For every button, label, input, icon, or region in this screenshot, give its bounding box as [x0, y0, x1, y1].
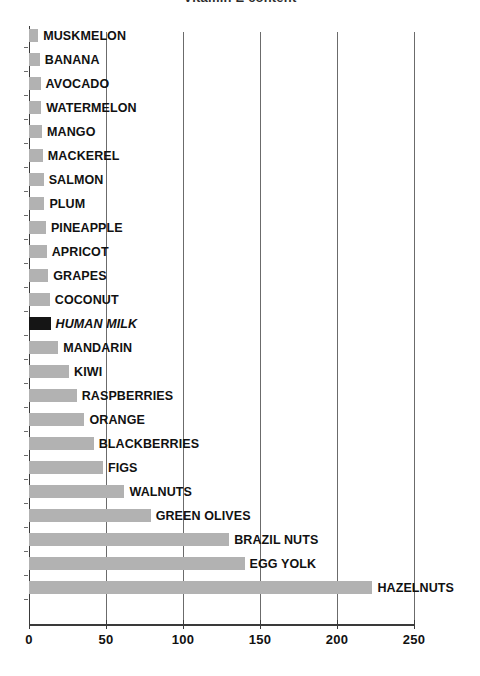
bar-label-mandarin: MANDARIN [63, 336, 132, 360]
bar-row: APRICOT [0, 240, 480, 264]
bar-label-hazelnuts: HAZELNUTS [377, 576, 454, 600]
bar-avocado [29, 77, 41, 90]
bar-label-egg-yolk: EGG YOLK [250, 552, 317, 576]
bar-label-pineapple: PINEAPPLE [51, 216, 123, 240]
x-tick-200 [337, 620, 338, 629]
bar-label-green-olives: GREEN OLIVES [156, 504, 251, 528]
bar-label-avocado: AVOCADO [46, 72, 110, 96]
bar-orange [29, 413, 84, 426]
bar-row: GREEN OLIVES [0, 504, 480, 528]
bar-row: BRAZIL NUTS [0, 528, 480, 552]
bar-row: ORANGE [0, 408, 480, 432]
bar-label-banana: BANANA [45, 48, 100, 72]
bar-row: BLACKBERRIES [0, 432, 480, 456]
x-tick-0 [29, 620, 30, 629]
bar-brazil-nuts [29, 533, 229, 546]
bar-label-mackerel: MACKEREL [48, 144, 120, 168]
bar-chart: Vitamin E content MUSKMELONBANANAAVOCADO… [0, 0, 480, 676]
x-tick-label-250: 250 [403, 632, 425, 647]
bar-raspberries [29, 389, 77, 402]
chart-title-text: Vitamin E content [184, 0, 297, 2]
x-tick-label-100: 100 [172, 632, 194, 647]
bar-label-human-milk: HUMAN MILK [56, 312, 138, 336]
bar-apricot [29, 245, 47, 258]
bar-row: SALMON [0, 168, 480, 192]
x-tick-label-200: 200 [326, 632, 348, 647]
bar-walnuts [29, 485, 124, 498]
bar-label-apricot: APRICOT [52, 240, 109, 264]
x-tick-100 [183, 620, 184, 629]
bar-row: HUMAN MILK [0, 312, 480, 336]
chart-title-fragment: Vitamin E content [0, 0, 480, 9]
x-tick-label-150: 150 [249, 632, 271, 647]
bar-row: MACKEREL [0, 144, 480, 168]
bar-label-grapes: GRAPES [53, 264, 106, 288]
bar-row: COCONUT [0, 288, 480, 312]
bar-mango [29, 125, 42, 138]
bar-label-muskmelon: MUSKMELON [43, 24, 126, 48]
bar-label-raspberries: RASPBERRIES [82, 384, 173, 408]
x-tick-50 [106, 620, 107, 629]
bar-row: RASPBERRIES [0, 384, 480, 408]
bar-label-walnuts: WALNUTS [129, 480, 192, 504]
x-tick-250 [414, 620, 415, 629]
x-tick-label-50: 50 [99, 632, 114, 647]
bar-row: AVOCADO [0, 72, 480, 96]
bar-row: PLUM [0, 192, 480, 216]
bar-human-milk [29, 317, 51, 330]
bar-mackerel [29, 149, 43, 162]
bar-grapes [29, 269, 48, 282]
bar-green-olives [29, 509, 151, 522]
bar-row: MANDARIN [0, 336, 480, 360]
bar-rows: MUSKMELONBANANAAVOCADOWATERMELONMANGOMAC… [0, 24, 480, 616]
bar-egg-yolk [29, 557, 245, 570]
bar-row: GRAPES [0, 264, 480, 288]
bar-label-kiwi: KIWI [74, 360, 102, 384]
bar-label-watermelon: WATERMELON [46, 96, 136, 120]
bar-blackberries [29, 437, 94, 450]
bar-watermelon [29, 101, 41, 114]
bar-label-mango: MANGO [47, 120, 95, 144]
bar-coconut [29, 293, 50, 306]
bar-row: FIGS [0, 456, 480, 480]
bar-row: KIWI [0, 360, 480, 384]
bar-pineapple [29, 221, 46, 234]
x-tick-150 [260, 620, 261, 629]
bar-figs [29, 461, 103, 474]
x-tick-label-0: 0 [25, 632, 32, 647]
plot-area: MUSKMELONBANANAAVOCADOWATERMELONMANGOMAC… [0, 24, 480, 624]
bar-row: HAZELNUTS [0, 576, 480, 600]
bar-label-figs: FIGS [108, 456, 138, 480]
bar-row: MUSKMELON [0, 24, 480, 48]
bar-hazelnuts [29, 581, 372, 594]
bar-label-orange: ORANGE [89, 408, 144, 432]
y-tick [24, 599, 28, 600]
bar-row: MANGO [0, 120, 480, 144]
bar-row: BANANA [0, 48, 480, 72]
bar-muskmelon [29, 29, 38, 42]
bar-salmon [29, 173, 44, 186]
bar-label-coconut: COCONUT [55, 288, 119, 312]
bar-plum [29, 197, 44, 210]
bar-banana [29, 53, 40, 66]
bar-row: EGG YOLK [0, 552, 480, 576]
bar-row: WATERMELON [0, 96, 480, 120]
bar-kiwi [29, 365, 69, 378]
bar-label-plum: PLUM [49, 192, 85, 216]
bar-label-salmon: SALMON [49, 168, 104, 192]
bar-row: PINEAPPLE [0, 216, 480, 240]
bar-row: WALNUTS [0, 480, 480, 504]
x-axis-line [29, 624, 415, 626]
bar-mandarin [29, 341, 58, 354]
bar-label-blackberries: BLACKBERRIES [99, 432, 200, 456]
bar-label-brazil-nuts: BRAZIL NUTS [234, 528, 318, 552]
